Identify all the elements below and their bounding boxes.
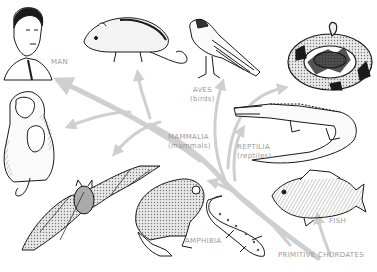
evolution-diagram: MAN AVES (birds) MAMMALIA (mammals) REPT… — [0, 0, 377, 272]
rat-illustration — [84, 18, 187, 64]
label-reptilia-common: (reptiles) — [237, 152, 272, 161]
arrow-to-birds — [215, 84, 225, 180]
label-primitive-chordates-text: PRIMITIVE CHORDATES — [278, 251, 364, 259]
label-primitive-chordates: PRIMITIVE CHORDATES — [278, 251, 364, 260]
bird-illustration — [190, 19, 260, 78]
label-aves: AVES (birds) — [190, 86, 215, 104]
label-aves-text: AVES — [190, 86, 215, 95]
monkey-illustration — [4, 92, 54, 196]
label-amphibia-text: AMPHIBIA — [185, 237, 221, 245]
man-illustration — [4, 8, 52, 80]
label-amphibia: AMPHIBIA — [185, 237, 221, 246]
label-man-text: MAN — [51, 58, 68, 66]
label-fish: FISH — [329, 217, 346, 226]
label-fish-text: FISH — [329, 217, 346, 225]
snake-illustration — [288, 22, 372, 90]
label-aves-common: (birds) — [190, 95, 215, 104]
label-mammalia-common: (mammals) — [168, 142, 211, 151]
label-mammalia-text: MAMMALIA — [168, 133, 211, 142]
label-reptilia-text: REPTILIA — [237, 143, 272, 152]
label-man: MAN — [51, 58, 68, 67]
fish-illustration — [272, 170, 366, 226]
salamander-illustration — [207, 196, 265, 256]
arrow-to-rat — [138, 75, 150, 118]
label-reptilia: REPTILIA (reptiles) — [237, 143, 272, 161]
label-mammalia: MAMMALIA (mammals) — [168, 133, 211, 151]
